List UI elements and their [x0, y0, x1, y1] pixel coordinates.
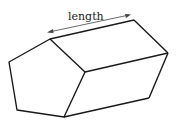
middle-edge	[85, 53, 168, 72]
front-pentagon-face	[9, 39, 85, 117]
length-label: length	[68, 10, 104, 23]
pentagon-outline	[9, 39, 85, 117]
back-top-right-edge	[134, 20, 168, 53]
prism-diagram: length	[0, 0, 182, 126]
back-right-edge	[149, 53, 168, 98]
lateral-edges	[50, 20, 168, 117]
arrowhead-right-icon	[125, 14, 131, 18]
bottom-edge	[64, 98, 149, 117]
arrowhead-left-icon	[47, 29, 54, 33]
